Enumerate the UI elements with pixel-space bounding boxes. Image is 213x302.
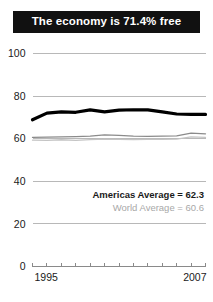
y-tick-label-80: 80 <box>14 90 26 102</box>
y-tick-label-60: 60 <box>14 132 26 144</box>
y-tick-label-100: 100 <box>8 47 26 59</box>
chart-svg: 020406080100 19952007 <box>0 36 213 302</box>
x-axis <box>33 263 206 267</box>
page-title: The economy is 71.4% free <box>32 16 182 28</box>
y-axis-tick-labels: 020406080100 <box>8 47 26 272</box>
chart-title-banner: The economy is 71.4% free <box>13 11 200 33</box>
data-series-group <box>33 110 206 141</box>
legend-item-americas-average: Americas Average = 62.3 <box>92 189 204 202</box>
chart-page: The economy is 71.4% free 020406080100 1… <box>0 0 213 302</box>
x-tick-label-start: 1995 <box>35 271 59 283</box>
y-tick-label-0: 0 <box>20 260 26 272</box>
y-tick-label-20: 20 <box>14 218 26 230</box>
series-line-americas-average <box>33 133 206 137</box>
x-axis-tick-labels: 19952007 <box>35 271 207 283</box>
y-tick-label-40: 40 <box>14 175 26 187</box>
legend-item-world-average: World Average = 60.6 <box>92 202 204 215</box>
series-line-country-score <box>33 110 206 120</box>
chart-legend: Americas Average = 62.3 World Average = … <box>92 189 204 214</box>
line-chart: 020406080100 19952007 <box>0 36 213 302</box>
x-tick-label-end: 2007 <box>183 271 207 283</box>
